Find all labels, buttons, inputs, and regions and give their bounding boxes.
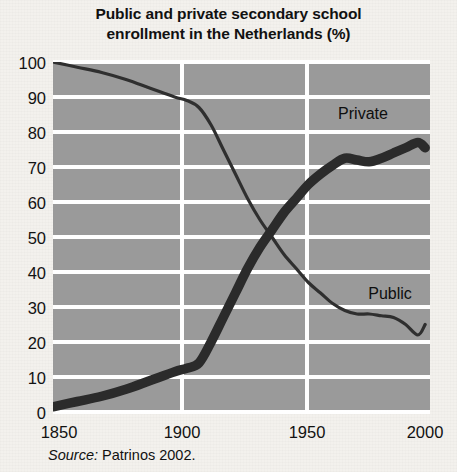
source-note: Source: Patrinos 2002.: [48, 447, 196, 463]
chart-figure: 100 90 80 70 60 50 40 30 20 10 0 1850 19…: [0, 0, 457, 472]
x-tick-1950: 1950: [289, 423, 326, 441]
series-label-private: Private: [338, 105, 388, 122]
y-tick-70: 70: [28, 159, 46, 177]
x-tick-2000: 2000: [407, 423, 444, 441]
y-tick-50: 50: [28, 229, 46, 247]
y-tick-90: 90: [28, 89, 46, 107]
y-tick-0: 0: [37, 404, 46, 422]
y-tick-60: 60: [28, 194, 46, 212]
y-tick-20: 20: [28, 334, 46, 352]
y-tick-10: 10: [28, 369, 46, 387]
chart-svg: 100 90 80 70 60 50 40 30 20 10 0 1850 19…: [0, 0, 457, 472]
y-tick-30: 30: [28, 299, 46, 317]
source-text: Patrinos 2002.: [102, 447, 196, 463]
y-tick-40: 40: [28, 264, 46, 282]
x-axis-tick-labels: 1850 1900 1950 2000: [41, 423, 444, 441]
y-tick-80: 80: [28, 124, 46, 142]
series-label-public: Public: [368, 285, 412, 302]
y-tick-100: 100: [18, 54, 46, 72]
x-tick-1850: 1850: [41, 423, 78, 441]
y-axis-tick-labels: 100 90 80 70 60 50 40 30 20 10 0: [18, 54, 46, 422]
source-prefix: Source:: [48, 447, 98, 463]
x-tick-1900: 1900: [164, 423, 201, 441]
